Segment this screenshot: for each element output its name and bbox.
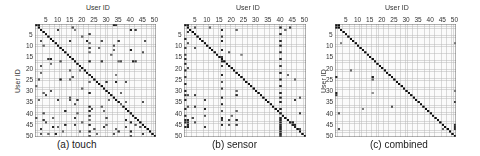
y-tick-label: 40 [326, 110, 333, 117]
y-tick-label: 20 [175, 65, 182, 72]
x-tick-label: 10 [354, 16, 361, 23]
y-tick-label: 10 [26, 42, 33, 49]
x-axis-title: User ID [385, 4, 409, 11]
y-tick-label: 35 [175, 98, 182, 105]
y-tick-label: 40 [175, 110, 182, 117]
y-tick-label: 45 [26, 121, 33, 128]
y-tick-label: 30 [26, 87, 33, 94]
y-tick-label: 50 [326, 132, 333, 139]
heatmap-grid [184, 24, 306, 137]
y-tick-label: 50 [175, 132, 182, 139]
x-tick-label: 20 [378, 16, 385, 23]
y-tick-label: 45 [326, 121, 333, 128]
y-tick-label: 15 [326, 53, 333, 60]
x-tick-label: 25 [90, 16, 97, 23]
x-tick-label: 30 [402, 16, 409, 23]
heatmap-panel-combined: User ID User ID (c) combined 55101015152… [300, 0, 460, 156]
x-tick-label: 50 [451, 16, 458, 23]
y-tick-label: 15 [26, 53, 33, 60]
y-tick-label: 25 [326, 76, 333, 83]
x-tick-label: 45 [439, 16, 446, 23]
y-tick-label: 10 [175, 42, 182, 49]
y-tick-label: 10 [326, 42, 333, 49]
y-tick-label: 30 [326, 87, 333, 94]
y-tick-label: 5 [178, 31, 182, 38]
x-tick-label: 5 [344, 16, 348, 23]
x-tick-label: 5 [44, 16, 48, 23]
y-tick-label: 35 [326, 98, 333, 105]
x-tick-label: 45 [139, 16, 146, 23]
x-tick-label: 20 [78, 16, 85, 23]
y-tick-label: 30 [175, 87, 182, 94]
x-tick-label: 25 [390, 16, 397, 23]
x-tick-label: 15 [66, 16, 73, 23]
x-tick-label: 25 [240, 16, 247, 23]
x-tick-label: 40 [127, 16, 134, 23]
x-tick-label: 5 [193, 16, 197, 23]
y-tick-label: 15 [175, 53, 182, 60]
heatmap-panel-touch: User ID User ID (a) touch 55101015152020… [0, 0, 160, 156]
x-tick-label: 30 [252, 16, 259, 23]
y-tick-label: 50 [26, 132, 33, 139]
x-tick-label: 15 [215, 16, 222, 23]
y-tick-label: 35 [26, 98, 33, 105]
y-tick-label: 20 [26, 65, 33, 72]
y-tick-label: 25 [26, 76, 33, 83]
x-tick-label: 45 [289, 16, 296, 23]
y-tick-label: 25 [175, 76, 182, 83]
heatmap-panel-sensor: User ID User ID (b) sensor 5510101515202… [150, 0, 310, 156]
x-tick-label: 30 [102, 16, 109, 23]
x-tick-label: 15 [366, 16, 373, 23]
y-tick-label: 5 [329, 31, 333, 38]
heatmap-grid [335, 24, 456, 137]
y-tick-label: 45 [175, 121, 182, 128]
x-tick-label: 10 [54, 16, 61, 23]
panel-caption: (a) touch [57, 139, 96, 150]
x-axis-title: User ID [86, 4, 110, 11]
heatmap-grid [35, 24, 156, 137]
x-tick-label: 10 [203, 16, 210, 23]
y-axis-title: User ID [14, 69, 21, 93]
x-tick-label: 35 [414, 16, 421, 23]
x-tick-label: 35 [264, 16, 271, 23]
y-tick-label: 20 [326, 65, 333, 72]
x-tick-label: 40 [427, 16, 434, 23]
x-tick-label: 20 [228, 16, 235, 23]
x-tick-label: 35 [114, 16, 121, 23]
y-tick-label: 40 [26, 110, 33, 117]
panel-caption: (b) sensor [212, 139, 257, 150]
x-tick-label: 40 [276, 16, 283, 23]
x-axis-title: User ID [236, 4, 260, 11]
y-tick-label: 5 [29, 31, 33, 38]
panel-caption: (c) combined [370, 139, 428, 150]
